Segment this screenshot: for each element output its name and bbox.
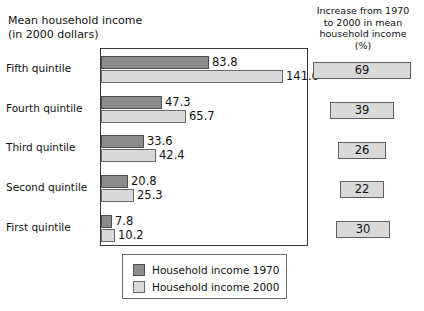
legend-label-2000: Household income 2000 [152, 281, 279, 293]
increase-column-heading: Increase from 1970 to 2000 in mean house… [304, 5, 422, 51]
bar-1970-third-quintile [101, 135, 144, 148]
bar-value-1970-fifth-quintile: 83.8 [212, 56, 238, 69]
increase-box-fourth-quintile: 39 [330, 102, 394, 119]
increase-box-second-quintile: 22 [340, 181, 384, 198]
chart-screenshot: Mean household income (in 2000 dollars) … [0, 0, 424, 311]
legend-swatch-1970-icon [133, 264, 145, 276]
category-label-second-quintile: Second quintile [6, 181, 98, 193]
bar-value-2000-fourth-quintile: 65.7 [189, 110, 215, 123]
bar-value-1970-second-quintile: 20.8 [131, 175, 157, 188]
bar-2000-fifth-quintile [101, 70, 283, 83]
legend-swatch-2000-icon [133, 281, 145, 293]
bar-value-2000-first-quintile: 10.2 [118, 229, 144, 242]
increase-box-first-quintile: 30 [336, 221, 390, 238]
category-label-first-quintile: First quintile [6, 221, 98, 233]
bar-1970-fifth-quintile [101, 56, 209, 69]
increase-box-fifth-quintile: 69 [313, 62, 411, 79]
bar-value-1970-fourth-quintile: 47.3 [165, 96, 191, 109]
legend-label-1970: Household income 1970 [152, 264, 279, 276]
bar-1970-second-quintile [101, 175, 128, 188]
bar-2000-third-quintile [101, 149, 156, 162]
increase-box-third-quintile: 26 [338, 142, 386, 159]
bar-value-2000-third-quintile: 42.4 [159, 149, 185, 162]
category-label-third-quintile: Third quintile [6, 141, 98, 153]
category-label-fourth-quintile: Fourth quintile [6, 102, 98, 114]
legend: Household income 1970 Household income 2… [122, 254, 287, 299]
legend-item-1970: Household income 1970 [133, 262, 279, 278]
legend-item-2000: Household income 2000 [133, 279, 279, 295]
bar-1970-fourth-quintile [101, 96, 162, 109]
category-label-fifth-quintile: Fifth quintile [6, 62, 98, 74]
bar-2000-first-quintile [101, 229, 115, 242]
page-title: Mean household income (in 2000 dollars) [8, 14, 142, 42]
bar-value-1970-third-quintile: 33.6 [147, 135, 173, 148]
bar-value-1970-first-quintile: 7.8 [115, 215, 133, 228]
bar-1970-first-quintile [101, 215, 112, 228]
bar-value-2000-second-quintile: 25.3 [137, 189, 163, 202]
bar-2000-second-quintile [101, 189, 134, 202]
bar-2000-fourth-quintile [101, 110, 186, 123]
